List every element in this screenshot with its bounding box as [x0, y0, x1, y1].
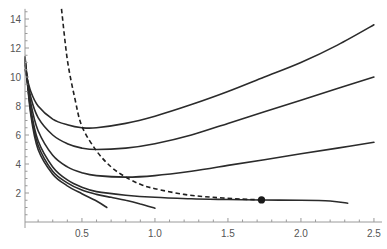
y-tick-label: 12 — [10, 43, 22, 54]
y-tick-label: 6 — [15, 130, 21, 141]
y-axis: 2468101214 — [10, 9, 29, 228]
y-tick-label: 2 — [15, 188, 21, 199]
x-tick-label: 1.5 — [221, 228, 235, 239]
line-chart: 0.51.01.52.02.5 2468101214 — [0, 0, 387, 249]
solid-curve — [25, 60, 348, 204]
x-tick-label: 0.5 — [75, 228, 89, 239]
dashed-envelope-curve — [62, 9, 262, 200]
x-tick-label: 2.5 — [367, 228, 381, 239]
point-marker — [258, 196, 265, 203]
y-tick-label: 4 — [15, 159, 21, 170]
solid-curve — [25, 58, 155, 208]
x-tick-label: 1.0 — [148, 228, 162, 239]
x-axis: 0.51.01.52.02.5 — [25, 218, 382, 239]
y-tick-label: 10 — [10, 72, 22, 83]
y-tick-label: 8 — [15, 101, 21, 112]
y-tick-label: 14 — [10, 14, 22, 25]
solid-curve — [25, 57, 107, 208]
x-tick-label: 2.0 — [294, 228, 308, 239]
solid-curve — [25, 63, 374, 178]
curves — [25, 9, 374, 208]
markers — [258, 196, 265, 203]
